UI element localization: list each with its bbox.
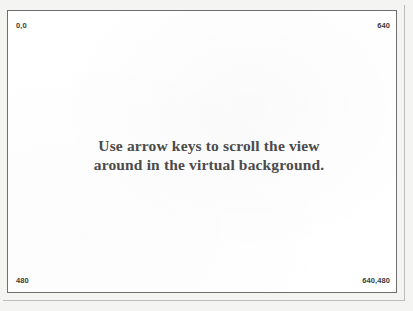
coordinate-marker-top-left: 0,0: [16, 22, 27, 30]
instruction-line-2: around in the virtual background.: [22, 155, 396, 174]
coordinate-marker-bottom-right: 640,480: [362, 277, 390, 285]
virtual-background-canvas[interactable]: 0,0 640 480 640,480 Use arrow keys to sc…: [7, 10, 397, 293]
coordinate-marker-bottom-left: 480: [16, 277, 29, 285]
coordinate-marker-top-right: 640: [377, 22, 390, 30]
instruction-text-block: Use arrow keys to scroll the view around…: [8, 136, 396, 174]
instruction-line-1: Use arrow keys to scroll the view: [22, 136, 396, 155]
scanned-page: 0,0 640 480 640,480 Use arrow keys to sc…: [0, 0, 413, 311]
